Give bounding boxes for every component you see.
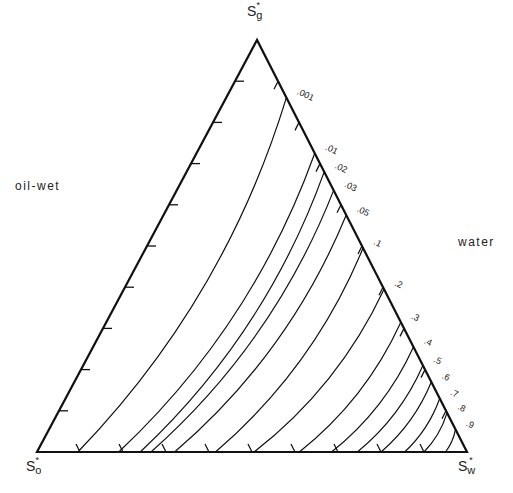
contour-line xyxy=(332,347,414,452)
contour-line xyxy=(357,365,423,452)
tick-bottom xyxy=(162,444,166,452)
contour-line xyxy=(119,153,315,452)
tick-right xyxy=(274,81,278,89)
tick-right xyxy=(316,164,320,172)
contour-line xyxy=(254,289,384,452)
contour-label: .6 xyxy=(440,371,451,383)
tick-bottom xyxy=(291,444,295,452)
tick-bottom xyxy=(420,444,424,452)
ternary-plot: .001.01.02.03.05.1.2.3.4.5.6.7.8.9 xyxy=(0,0,513,493)
contour-label: .01 xyxy=(324,142,340,156)
tick-right xyxy=(337,205,341,213)
contour-label: .3 xyxy=(410,311,421,323)
contour-label: .1 xyxy=(372,237,383,249)
contour-line xyxy=(299,322,401,452)
contour-label: .9 xyxy=(465,418,476,430)
contour-label: .5 xyxy=(432,354,443,366)
tick-right xyxy=(295,122,299,130)
contour-label: .03 xyxy=(343,179,359,193)
tick-bottom xyxy=(248,444,252,452)
contour-label: .05 xyxy=(355,204,371,218)
contour-line xyxy=(405,398,440,452)
contour-line xyxy=(424,413,447,452)
contour-label: .4 xyxy=(423,336,434,348)
contour-label: .001 xyxy=(296,86,316,102)
contour-line xyxy=(446,429,456,452)
contour-label: .02 xyxy=(333,161,349,175)
tick-right xyxy=(400,328,404,336)
contour-label: .2 xyxy=(393,278,404,290)
tick-right xyxy=(421,370,425,378)
tick-bottom xyxy=(205,444,209,452)
triangle-outline xyxy=(37,40,467,452)
contour-line xyxy=(175,215,347,452)
contour-line xyxy=(381,382,431,452)
contour-line xyxy=(78,98,287,452)
contour-label: .7 xyxy=(449,387,460,399)
tick-bottom xyxy=(377,444,381,452)
contour-label: .8 xyxy=(456,402,467,414)
